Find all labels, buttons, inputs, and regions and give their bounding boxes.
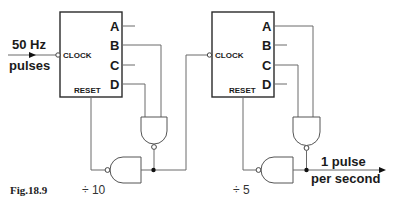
counter-1-reset-wire bbox=[91, 97, 105, 170]
counter-2-pin-c: C bbox=[262, 58, 272, 73]
counter-1-pin-c: C bbox=[110, 58, 120, 73]
counter-1-pin-b: B bbox=[110, 38, 119, 53]
counter-2-reset-bubble-icon bbox=[256, 168, 261, 173]
counter-1-clock-label: CLOCK bbox=[63, 51, 92, 60]
counter-1-divider-label: ÷ 10 bbox=[82, 183, 106, 197]
input-signal: 50 Hz pulses bbox=[8, 37, 56, 73]
counter-2-pin-a: A bbox=[262, 19, 272, 34]
counter-2-divider-label: ÷ 5 bbox=[233, 183, 250, 197]
counter-1-reset-nand-gate bbox=[110, 157, 141, 183]
counter-1-reset-label: RESET bbox=[74, 86, 101, 95]
counter-1-decoder-nand-gate bbox=[141, 117, 167, 144]
counter-2-reset-nand-gate bbox=[261, 157, 293, 183]
circuit-diagram: 50 Hz pulses CLOCK RESET A B C D ÷ 10 bbox=[0, 0, 395, 205]
input-pulses-label: pulses bbox=[9, 58, 50, 73]
counter-2-decoder-bubble-icon bbox=[304, 146, 309, 151]
output-label-line1: 1 pulse bbox=[321, 154, 366, 169]
counter-2-pin-b: B bbox=[262, 38, 271, 53]
input-frequency-label: 50 Hz bbox=[12, 37, 46, 52]
counter-1-decoder-bubble-icon bbox=[152, 145, 157, 150]
counter-2: CLOCK RESET A B C D ÷ 5 bbox=[207, 12, 386, 197]
counter-1-b-wire bbox=[122, 45, 161, 117]
counter-2-c-wire bbox=[274, 65, 298, 117]
counter-2-pin-d: D bbox=[262, 77, 271, 92]
counter-2-clock-bubble-icon bbox=[207, 53, 211, 57]
counter-1-reset-bubble-icon bbox=[105, 168, 110, 173]
counter-2-reset-wire bbox=[243, 97, 256, 170]
counter-2-junction-dot bbox=[304, 168, 308, 172]
counter-2-reset-label: RESET bbox=[229, 86, 256, 95]
interconnect-wire bbox=[186, 55, 207, 170]
counter-2-decoder-nand-gate bbox=[293, 117, 320, 146]
counter-1: CLOCK RESET A B C D ÷ 10 bbox=[56, 12, 186, 197]
counter-1-junction-dot bbox=[151, 168, 155, 172]
counter-1-clock-bubble-icon bbox=[56, 53, 60, 57]
counter-2-clock-label: CLOCK bbox=[215, 51, 244, 60]
counter-1-pin-a: A bbox=[110, 19, 120, 34]
output-label-line2: per second bbox=[311, 171, 380, 186]
counter-1-d-wire bbox=[122, 84, 145, 117]
figure-caption: Fig.18.9 bbox=[10, 184, 48, 196]
counter-2-a-wire bbox=[274, 26, 313, 117]
counter-1-pin-d: D bbox=[110, 77, 119, 92]
